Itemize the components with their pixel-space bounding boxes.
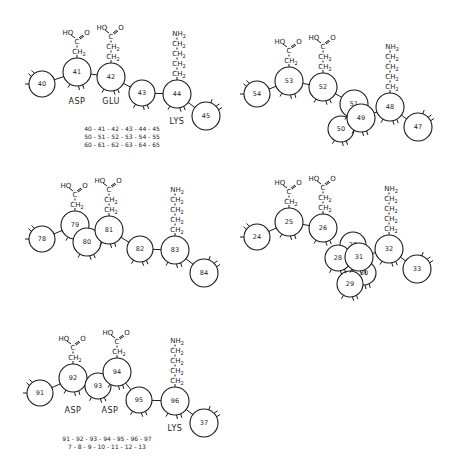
hydrogen-bond-tick bbox=[131, 411, 133, 414]
residue-number: 44 bbox=[173, 90, 181, 98]
hydrogen-bond-tick bbox=[114, 91, 115, 95]
carboxyl-side-chain: CH2CH2CHOO bbox=[97, 24, 125, 63]
residue-33: 33 bbox=[403, 252, 433, 283]
hydrogen-bond-tick bbox=[330, 240, 331, 244]
carbon-atom: C bbox=[75, 38, 80, 46]
hydrogen-bond-tick bbox=[362, 132, 363, 136]
hydrogen-bond-tick bbox=[209, 256, 210, 260]
ch2-group: CH2 bbox=[68, 354, 81, 363]
hydrogen-bond-tick bbox=[141, 413, 142, 417]
hydrogen-bond-tick bbox=[427, 257, 430, 259]
hydrogen-bond-tick bbox=[166, 413, 168, 416]
residue-number: 82 bbox=[136, 245, 144, 253]
residue-type-label: GLU bbox=[102, 97, 120, 106]
hydrogen-bond-tick bbox=[326, 101, 327, 105]
residue-29: 29 bbox=[337, 271, 363, 301]
hydrogen-bond-tick bbox=[68, 84, 70, 87]
carbon-atom: C bbox=[321, 184, 326, 192]
residue-type-label: LYS bbox=[168, 424, 183, 433]
hydrogen-bond-tick bbox=[110, 244, 111, 248]
hydrogen-bond-tick bbox=[314, 240, 316, 243]
hydrogen-bond-tick bbox=[78, 254, 80, 257]
residue-number: 53 bbox=[285, 77, 293, 85]
residue-number: 54 bbox=[253, 90, 261, 98]
residue-number: 79 bbox=[71, 221, 79, 229]
hydrogen-bond-tick bbox=[32, 225, 35, 228]
residue-number: 95 bbox=[135, 396, 143, 404]
ch2-group: CH2 bbox=[385, 63, 398, 72]
amine-side-chain: CH2CH2CH2CH2NH2 bbox=[170, 186, 184, 236]
ch2-group: CH2 bbox=[104, 196, 117, 205]
panel-2: CH2CHOOCH2CH2CHOOCH2CH2CH2CH2NH254535250… bbox=[240, 34, 434, 146]
ch2-group: CH2 bbox=[170, 206, 183, 215]
hydrogen-bond-tick bbox=[247, 223, 250, 226]
ch2-group: CH2 bbox=[70, 201, 83, 210]
residue-number: 94 bbox=[113, 368, 121, 376]
residue-number: 81 bbox=[105, 226, 113, 234]
carboxyl-side-chain: CH2CH2CHOO bbox=[309, 175, 337, 214]
hydrogen-bond-tick bbox=[380, 261, 382, 264]
hydrogen-bond-tick bbox=[295, 94, 296, 98]
residue-47: 47 bbox=[404, 110, 434, 141]
hydrogen-bond-tick bbox=[102, 89, 104, 92]
hydrogen-bond-tick bbox=[367, 131, 368, 135]
residue-number: 31 bbox=[355, 253, 363, 261]
hydrogen-bond-tick bbox=[340, 271, 341, 275]
hydrogen-bond-tick bbox=[280, 234, 282, 237]
carboxyl-side-chain: CH2CHOO bbox=[59, 335, 87, 364]
nh2-group: NH2 bbox=[170, 186, 184, 195]
residue-32: 32 bbox=[375, 235, 403, 267]
oxygen-label: O bbox=[116, 177, 122, 185]
oxygen-label: O bbox=[118, 24, 124, 32]
ch2-group: CH2 bbox=[170, 196, 183, 205]
hydroxyl-label: HO bbox=[95, 177, 106, 185]
hydrogen-bond-tick bbox=[280, 93, 282, 96]
residue-45: 45 bbox=[192, 99, 222, 130]
carboxyl-side-chain: CH2CHOO bbox=[275, 38, 303, 67]
nh2-group: NH2 bbox=[170, 337, 184, 346]
oxygen-label: O bbox=[296, 179, 302, 187]
hydrogen-bond-tick bbox=[181, 263, 182, 267]
carbon-atom: C bbox=[73, 191, 78, 199]
hydrogen-bond-tick bbox=[219, 107, 222, 109]
residue-42: 42 bbox=[97, 63, 125, 95]
panel-3: CH2CHOOCH2CH2CHOOCH2CH2CH2CH2NH278798081… bbox=[25, 177, 220, 287]
residue-number: 26 bbox=[319, 224, 327, 232]
residue-84: 84 bbox=[190, 256, 220, 287]
hydrogen-bond-tick bbox=[397, 119, 398, 123]
hydrogen-bond-tick bbox=[115, 243, 116, 247]
residue-91: 91 bbox=[23, 379, 53, 406]
hydrogen-bond-tick bbox=[430, 260, 433, 262]
ch2-group: CH2 bbox=[284, 57, 297, 66]
ch2-group: CH2 bbox=[318, 204, 331, 213]
hydrogen-bond-tick bbox=[217, 414, 220, 416]
residue-24: 24 bbox=[240, 223, 270, 250]
hydrogen-bond-tick bbox=[243, 84, 246, 87]
amine-side-chain: CH2CH2CH2CH2NH2 bbox=[172, 30, 186, 80]
hydrogen-bond-tick bbox=[146, 411, 147, 415]
residue-number: 28 bbox=[334, 254, 342, 262]
hydrogen-bond-tick bbox=[78, 86, 79, 90]
hydrogen-bond-tick bbox=[247, 80, 250, 83]
hydrogen-bond-tick bbox=[365, 285, 366, 289]
ch2-group: CH2 bbox=[170, 367, 183, 376]
hydrogen-bond-tick bbox=[217, 264, 220, 266]
ch2-group: CH2 bbox=[172, 40, 185, 49]
hydrogen-bond-tick bbox=[134, 104, 136, 107]
oxygen-label: O bbox=[330, 34, 336, 42]
carbon-atom: C bbox=[287, 188, 292, 196]
residue-95: 95 bbox=[126, 387, 152, 417]
hydroxyl-label: HO bbox=[97, 24, 108, 32]
sequence-label: 50 - 51 - 52 - 53 - 54 - 55 bbox=[84, 133, 160, 140]
nh2-group: NH2 bbox=[384, 185, 398, 194]
hydrogen-bond-tick bbox=[64, 390, 66, 393]
carbon-atom: C bbox=[115, 338, 120, 346]
residue-92: 92 bbox=[59, 364, 87, 396]
residue-48: 48 bbox=[376, 93, 404, 125]
hydrogen-bond-tick bbox=[105, 397, 106, 401]
residue-number: 25 bbox=[285, 218, 293, 226]
ch2-group: CH2 bbox=[318, 53, 331, 62]
residue-82: 82 bbox=[127, 236, 153, 266]
nh2-group: NH2 bbox=[385, 43, 399, 52]
hydrogen-bond-tick bbox=[330, 269, 332, 272]
